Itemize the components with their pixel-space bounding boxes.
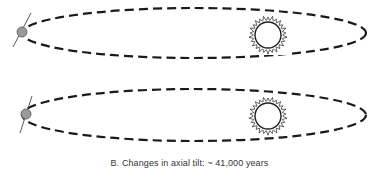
orbit-path — [22, 89, 366, 141]
earth-icon — [13, 13, 31, 47]
orbit-diagram — [0, 0, 379, 183]
orbit-panel-top — [13, 8, 366, 58]
diagram-caption: B. Changes in axial tilt: ~ 41,000 years — [0, 158, 379, 168]
earth-icon — [20, 96, 32, 133]
orbit-panel-bottom — [20, 89, 366, 141]
orbit-path — [22, 8, 366, 58]
sun-icon — [248, 15, 288, 55]
sun-icon — [248, 96, 288, 136]
